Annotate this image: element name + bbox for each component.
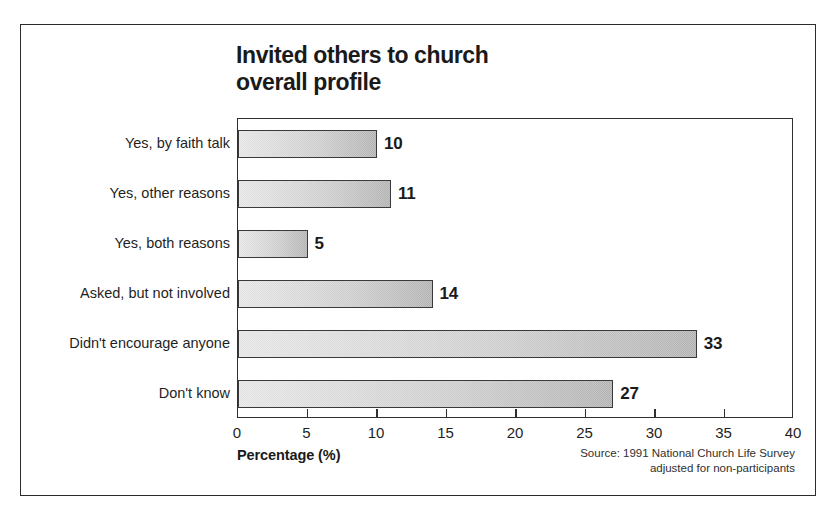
- bar-row: 14: [238, 280, 794, 308]
- x-axis-title: Percentage (%): [237, 447, 340, 463]
- category-label: Yes, both reasons: [0, 235, 230, 251]
- x-tick-mark: [515, 409, 517, 417]
- x-tick-mark: [376, 409, 378, 417]
- bar: [238, 380, 613, 408]
- x-tick-mark: [307, 409, 309, 417]
- category-label: Yes, other reasons: [0, 185, 230, 201]
- category-label: Didn't encourage anyone: [0, 335, 230, 351]
- bar-value-label: 5: [315, 234, 324, 254]
- bar-row: 5: [238, 230, 794, 258]
- bar-value-label: 11: [398, 184, 416, 204]
- figure-root: Invited others to church overall profile…: [0, 0, 840, 518]
- x-tick-mark: [585, 409, 587, 417]
- plot-area: 10115143327: [237, 118, 793, 418]
- x-tick-label: 40: [785, 424, 802, 441]
- category-label: Don't know: [0, 385, 230, 401]
- x-tick-label: 10: [368, 424, 385, 441]
- bar: [238, 180, 391, 208]
- x-tick-label: 0: [233, 424, 241, 441]
- x-tick-label: 15: [437, 424, 454, 441]
- bar-value-label: 33: [704, 334, 723, 354]
- bars-layer: 10115143327: [238, 119, 792, 417]
- bar-value-label: 14: [440, 284, 459, 304]
- bar: [238, 280, 433, 308]
- x-tick-mark: [446, 409, 448, 417]
- bar-value-label: 10: [384, 134, 403, 154]
- bar: [238, 130, 377, 158]
- chart-title: Invited others to church overall profile: [236, 42, 756, 96]
- bar-row: 10: [238, 130, 794, 158]
- source-note: Source: 1991 National Church Life Survey…: [465, 446, 795, 475]
- x-tick-mark: [654, 409, 656, 417]
- bar: [238, 330, 697, 358]
- x-tick-label: 25: [576, 424, 593, 441]
- x-tick-label: 30: [646, 424, 663, 441]
- x-tick-label: 5: [302, 424, 310, 441]
- bar-value-label: 27: [620, 384, 639, 404]
- bar: [238, 230, 308, 258]
- category-label: Asked, but not involved: [0, 285, 230, 301]
- x-tick-label: 35: [715, 424, 732, 441]
- bar-row: 11: [238, 180, 794, 208]
- bar-row: 33: [238, 330, 794, 358]
- bar-row: 27: [238, 380, 794, 408]
- x-tick-label: 20: [507, 424, 524, 441]
- category-axis-labels: Yes, by faith talkYes, other reasonsYes,…: [0, 118, 230, 418]
- category-label: Yes, by faith talk: [0, 135, 230, 151]
- x-tick-mark: [724, 409, 726, 417]
